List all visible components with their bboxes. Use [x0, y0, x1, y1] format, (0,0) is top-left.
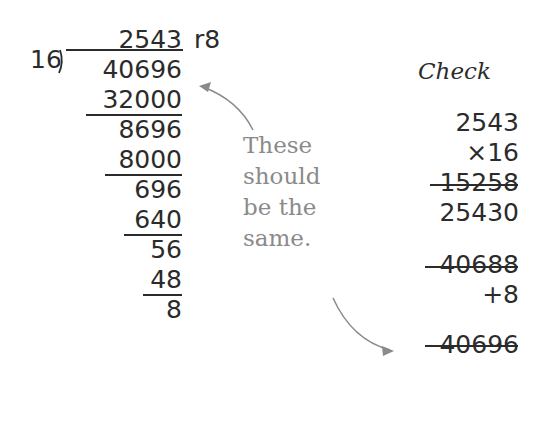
check-product: 40688	[439, 250, 519, 280]
quotient: 2543	[118, 25, 182, 55]
note-line-2: should	[243, 161, 320, 192]
note-line-4: same.	[243, 223, 320, 254]
check-result: 40696	[439, 330, 519, 360]
divisor: 16	[30, 45, 62, 75]
step-remainder-1: 8696	[118, 115, 182, 145]
note-line-3: be the	[243, 192, 320, 223]
step-subtract-1: 32000	[102, 85, 182, 115]
step-remainder-2: 696	[134, 175, 182, 205]
note-line-1: These	[243, 130, 320, 161]
arrow-head-bottom-icon	[382, 346, 394, 356]
step-subtract-2: 8000	[118, 145, 182, 175]
annotation-note: These should be the same.	[243, 130, 320, 254]
step-subtract-4: 48	[150, 265, 182, 295]
arrow-to-check-result-icon	[333, 298, 390, 350]
final-remainder: 8	[166, 295, 182, 325]
check-title: Check	[418, 58, 491, 84]
check-partial-1: 15258	[439, 168, 519, 198]
check-partial-2: 25430	[439, 198, 519, 228]
check-multiplicand: 2543	[455, 108, 519, 138]
step-remainder-3: 56	[150, 235, 182, 265]
arrow-head-top-icon	[199, 82, 211, 92]
dividend: 40696	[102, 55, 182, 85]
step-subtract-3: 640	[134, 205, 182, 235]
check-multiplier: ×16	[466, 138, 519, 168]
check-add-remainder: +8	[482, 280, 519, 310]
remainder-label: r8	[194, 25, 220, 55]
arrow-to-dividend-icon	[203, 87, 253, 130]
